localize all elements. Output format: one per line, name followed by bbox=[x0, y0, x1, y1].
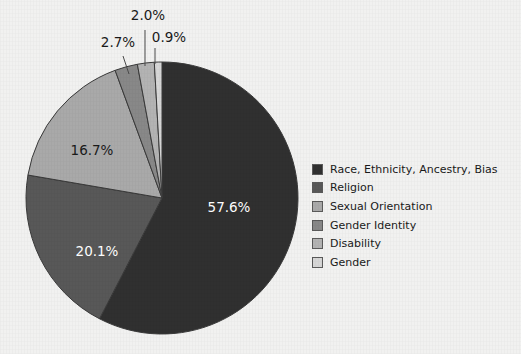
legend-swatch-icon bbox=[312, 220, 323, 231]
legend-item[interactable]: Race, Ethnicity, Ancestry, Bias bbox=[312, 160, 517, 179]
legend-item[interactable]: Sexual Orientation bbox=[312, 197, 517, 216]
legend-swatch-icon bbox=[312, 182, 323, 193]
pie-chart-figure: 57.6%20.1%16.7%2.7%2.0%0.9% Race, Ethnic… bbox=[0, 0, 521, 354]
legend-item-label: Disability bbox=[330, 238, 381, 249]
legend-item-label: Sexual Orientation bbox=[330, 201, 432, 212]
legend-item[interactable]: Gender Identity bbox=[312, 216, 517, 235]
legend-swatch-icon bbox=[312, 201, 323, 212]
legend-item-label: Gender Identity bbox=[330, 220, 416, 231]
slice-value-label: 20.1% bbox=[76, 243, 119, 259]
chart-legend: Race, Ethnicity, Ancestry, BiasReligionS… bbox=[312, 160, 517, 272]
legend-item[interactable]: Gender bbox=[312, 253, 517, 272]
slice-value-label: 16.7% bbox=[71, 142, 114, 158]
legend-item[interactable]: Disability bbox=[312, 234, 517, 253]
legend-item[interactable]: Religion bbox=[312, 179, 517, 198]
legend-item-label: Race, Ethnicity, Ancestry, Bias bbox=[330, 164, 498, 175]
slice-value-label: 2.7% bbox=[101, 34, 135, 50]
slice-value-label: 2.0% bbox=[131, 7, 165, 23]
slice-value-label: 0.9% bbox=[152, 29, 186, 45]
legend-item-label: Religion bbox=[330, 182, 374, 193]
legend-swatch-icon bbox=[312, 257, 323, 268]
pie-slices-group bbox=[26, 62, 298, 334]
legend-swatch-icon bbox=[312, 238, 323, 249]
slice-value-label: 57.6% bbox=[208, 199, 251, 215]
legend-swatch-icon bbox=[312, 164, 323, 175]
legend-item-label: Gender bbox=[330, 257, 371, 268]
